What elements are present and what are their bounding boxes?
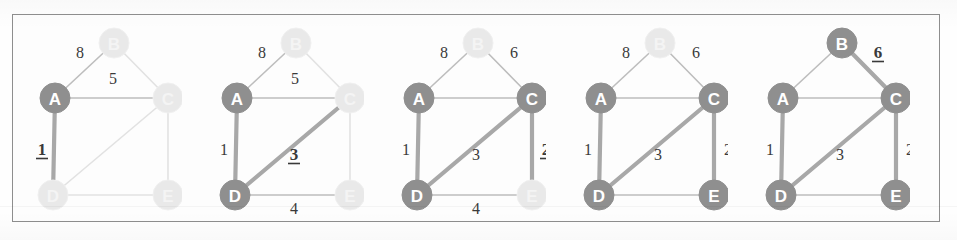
edge-weight-A-B: 8 — [76, 44, 84, 61]
edge-weight-A-D: 1 — [38, 140, 47, 159]
node-label-E: E — [344, 187, 355, 206]
node-label-E: E — [526, 187, 537, 206]
edge-weight-A-D: 1 — [766, 141, 774, 158]
edge-D-C — [53, 98, 168, 195]
node-label-B: B — [290, 35, 302, 54]
node-C: C — [335, 83, 364, 113]
node-label-B: B — [472, 35, 484, 54]
node-label-D: D — [411, 187, 423, 206]
node-label-B: B — [654, 35, 666, 54]
edge-weight-A-C: 5 — [109, 70, 117, 87]
node-label-A: A — [231, 90, 243, 109]
edge-weight-D-C: 3 — [290, 145, 299, 164]
node-label-C: C — [344, 90, 356, 109]
graph-panel-3: ABCDE861324 — [364, 0, 546, 240]
edge-weight-A-D: 1 — [402, 141, 410, 158]
node-A: A — [586, 83, 616, 113]
node-C: C — [699, 83, 728, 113]
edge-weight-A-B: 8 — [622, 44, 630, 61]
node-A: A — [40, 83, 70, 113]
edge-weight-D-C: 3 — [472, 146, 480, 163]
edge-weight-A-C: 5 — [291, 70, 299, 87]
node-label-B: B — [836, 35, 848, 54]
edge-weight-D-E: 4 — [290, 200, 298, 217]
edge-weight-A-B: 8 — [258, 44, 266, 61]
node-label-C: C — [162, 90, 174, 109]
figure-stage: ABCDE851ABCDE85134ABCDE861324ABCDE86132A… — [0, 0, 957, 240]
edge-weight-A-B: 8 — [440, 44, 448, 61]
node-A: A — [404, 83, 434, 113]
graph-panel-2: ABCDE85134 — [182, 0, 364, 240]
node-C: C — [517, 83, 546, 113]
node-label-A: A — [49, 90, 61, 109]
edge-weight-A-D: 1 — [220, 141, 228, 158]
node-B: B — [99, 28, 129, 58]
node-label-A: A — [777, 90, 789, 109]
node-label-A: A — [413, 90, 425, 109]
edge-weight-B-C: 6 — [692, 44, 700, 61]
node-label-D: D — [47, 187, 59, 206]
edge-weight-A-D: 1 — [584, 141, 592, 158]
graph-panel-4: ABCDE86132 — [546, 0, 728, 240]
node-A: A — [768, 83, 798, 113]
graph-panel-1: ABCDE851 — [0, 0, 182, 240]
edge-weight-C-E: 2 — [906, 141, 910, 158]
node-label-C: C — [526, 90, 538, 109]
edge-weight-D-E: 4 — [472, 200, 480, 217]
node-label-E: E — [162, 187, 173, 206]
edge-weight-D-C: 3 — [654, 146, 662, 163]
node-label-D: D — [593, 187, 605, 206]
node-C: C — [881, 83, 910, 113]
scan-artifact-line — [0, 206, 957, 207]
node-label-B: B — [108, 35, 120, 54]
edge-weight-B-C: 6 — [510, 44, 518, 61]
node-label-C: C — [890, 90, 902, 109]
node-label-A: A — [595, 90, 607, 109]
node-label-E: E — [708, 187, 719, 206]
node-label-D: D — [229, 187, 241, 206]
edge-weight-D-C: 3 — [836, 146, 844, 163]
graph-panel-5: ABCDE6132 — [728, 0, 910, 240]
node-label-D: D — [775, 187, 787, 206]
node-B: B — [463, 28, 493, 58]
node-B: B — [645, 28, 675, 58]
node-C: C — [153, 83, 182, 113]
node-B: B — [281, 28, 311, 58]
node-A: A — [222, 83, 252, 113]
node-label-C: C — [708, 90, 720, 109]
node-label-E: E — [890, 187, 901, 206]
node-B: B — [827, 28, 857, 58]
edge-weight-B-C: 6 — [874, 43, 883, 62]
